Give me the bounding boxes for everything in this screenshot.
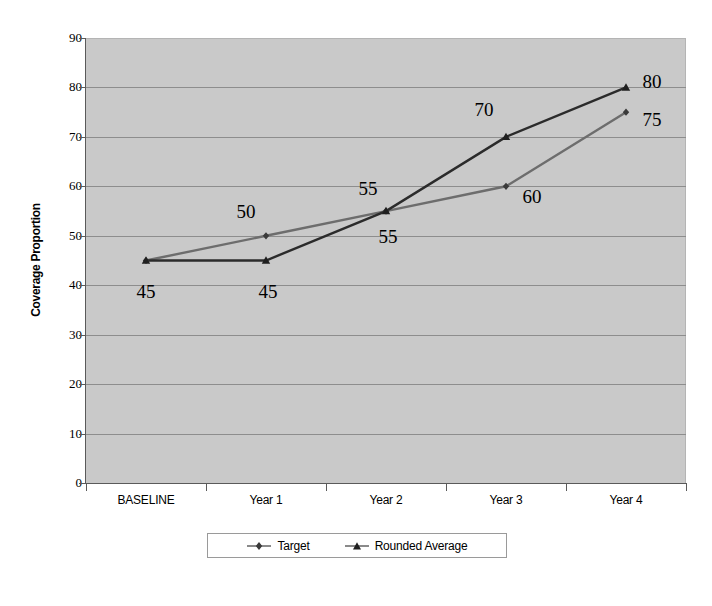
x-tickmark xyxy=(686,484,687,491)
triangle-marker-icon xyxy=(344,540,370,552)
diamond-marker-icon xyxy=(246,540,272,552)
legend-label-target: Target xyxy=(277,539,309,553)
gridline xyxy=(86,186,686,187)
y-tick-label: 70 xyxy=(52,129,82,145)
y-tickmark xyxy=(79,285,86,286)
data-label: 45 xyxy=(137,281,156,303)
gridline xyxy=(86,87,686,88)
data-label: 70 xyxy=(475,99,494,121)
y-axis-title-text: Coverage Proportion xyxy=(29,203,43,317)
x-tick-label: Year 2 xyxy=(369,493,402,507)
y-tick-label: 40 xyxy=(52,277,82,293)
y-tick-label: 80 xyxy=(52,79,82,95)
gridline xyxy=(86,335,686,336)
gridline xyxy=(86,285,686,286)
plot-area xyxy=(86,38,686,483)
y-tick-label: 90 xyxy=(52,30,82,46)
x-tickmark xyxy=(206,484,207,491)
x-tickmark xyxy=(566,484,567,491)
gridline xyxy=(86,137,686,138)
legend-entry-rounded-average[interactable]: Rounded Average xyxy=(344,539,468,553)
x-tick-label: Year 1 xyxy=(249,493,282,507)
y-tickmark xyxy=(79,384,86,385)
y-axis-title: Coverage Proportion xyxy=(24,150,48,370)
legend-entry-target[interactable]: Target xyxy=(246,539,309,553)
line-chart: Coverage Proportion 9080706050403020100 … xyxy=(0,0,712,606)
x-tick-label: Year 3 xyxy=(489,493,522,507)
x-tick-label: BASELINE xyxy=(117,493,174,507)
x-tickmark xyxy=(86,484,87,491)
y-tick-label: 60 xyxy=(52,178,82,194)
y-tickmark xyxy=(79,335,86,336)
y-axis-line xyxy=(85,38,86,484)
x-tick-label: Year 4 xyxy=(609,493,642,507)
y-tickmark xyxy=(79,186,86,187)
data-label: 45 xyxy=(259,281,278,303)
y-tickmark xyxy=(79,87,86,88)
gridline xyxy=(86,434,686,435)
chart-legend: Target Rounded Average xyxy=(207,533,507,558)
data-label: 50 xyxy=(237,201,256,223)
x-tickmark xyxy=(326,484,327,491)
y-tick-label: 10 xyxy=(52,426,82,442)
y-tickmark xyxy=(79,38,86,39)
data-label: 55 xyxy=(379,226,398,248)
x-axis-line xyxy=(85,483,687,484)
y-tickmark xyxy=(79,434,86,435)
gridline xyxy=(86,384,686,385)
y-tick-label: 30 xyxy=(52,327,82,343)
y-tickmark xyxy=(79,137,86,138)
legend-label-rounded-average: Rounded Average xyxy=(375,539,468,553)
data-label: 55 xyxy=(359,178,378,200)
y-axis-tick-labels: 9080706050403020100 xyxy=(52,30,82,492)
data-label: 60 xyxy=(523,186,542,208)
y-tickmark xyxy=(79,483,86,484)
y-tickmark xyxy=(79,236,86,237)
y-tick-label: 50 xyxy=(52,228,82,244)
data-label: 75 xyxy=(643,109,662,131)
data-label: 80 xyxy=(643,71,662,93)
y-tick-label: 0 xyxy=(52,475,82,491)
y-tick-label: 20 xyxy=(52,376,82,392)
x-tickmark xyxy=(446,484,447,491)
